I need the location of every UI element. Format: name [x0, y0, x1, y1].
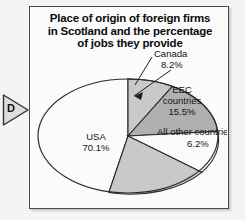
chart-panel: Place of origin of foreign firms in Scot… [29, 6, 229, 209]
pie-value-usa: 70.1% [83, 142, 110, 153]
pie-chart: USA 70.1% Canada 8.2% EEC countries 15.5… [30, 7, 227, 207]
section-marker-d: D [2, 93, 30, 127]
pie-label-canada: Canada [154, 48, 188, 59]
pie-value-eec: 15.5% [169, 106, 196, 117]
pie-label-eec-line1: EEC [172, 84, 192, 95]
section-marker-label: D [7, 102, 15, 114]
screenshot-root: D Place of origin of foreign firms in Sc… [0, 0, 245, 220]
pie-label-eec-line2: countries [163, 95, 202, 106]
pie-label-all-other: All other countries [157, 126, 227, 137]
pie-value-all-other: 6.2% [187, 138, 209, 149]
pie-label-usa: USA [86, 131, 106, 142]
pie-value-canada: 8.2% [161, 59, 183, 70]
